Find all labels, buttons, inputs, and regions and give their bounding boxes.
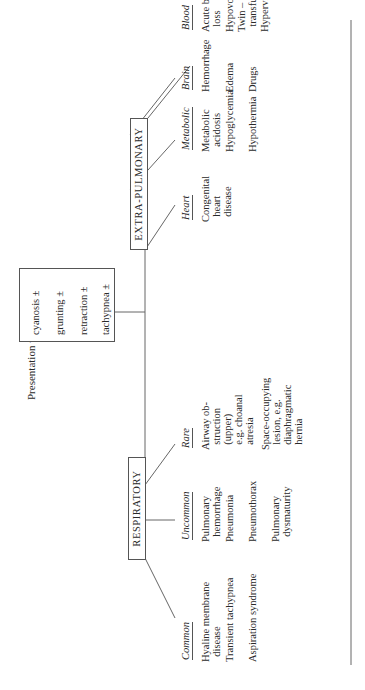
blood-item-3: Twin – Twin transfusion — [236, 0, 258, 32]
uncommon-item-2: Pneumonia — [224, 495, 235, 542]
symptom-retraction: retraction ± — [78, 286, 89, 335]
common-item-1: Hyaline membrane disease — [200, 582, 222, 662]
uncommon-item-3: Pneumothorax — [247, 481, 258, 542]
metabolic-item-2: Hypoglycemia — [224, 90, 235, 152]
connector-lines — [0, 0, 365, 690]
blood-item-1: Acute blood loss — [200, 0, 222, 32]
uncommon-item-1: Pulmonary hemorrhage — [200, 487, 222, 542]
header-heart: Heart — [180, 196, 193, 221]
header-uncommon: Uncommon — [180, 492, 193, 540]
metabolic-item-3: Hypothermia — [247, 97, 258, 152]
header-brain: Brain — [180, 66, 193, 90]
brain-item-2: Edema — [224, 63, 235, 92]
heart-item-1: Congenital heart disease — [200, 176, 233, 222]
common-item-2: Transient tachypnea — [224, 578, 235, 662]
uncommon-item-4: Pulmonary dysmaturity — [270, 487, 292, 542]
blood-item-2: Hypovolemia — [224, 0, 235, 32]
rare-item-2: Space-occupying lesion, e.g. diaphragmat… — [260, 378, 304, 450]
rare-item-1: Airway ob- struction (upper) e.g. choana… — [200, 394, 255, 450]
blood-item-4: Hyperviscosity — [259, 0, 270, 32]
extra-pulmonary-box: EXTRA-PULMONARY — [130, 118, 148, 250]
brain-item-1: Hemorrhage — [200, 40, 211, 92]
symptom-cyanosis: cyanosis ± — [30, 290, 41, 335]
symptoms-box: cyanosis ± grunting ± retraction ± tachy… — [19, 268, 115, 342]
symptom-tachypnea: tachypnea ± — [100, 284, 111, 335]
symptom-grunting: grunting ± — [54, 291, 65, 335]
respiratory-box: RESPIRATORY — [128, 457, 146, 560]
metabolic-item-1: Metabolic acidosis — [200, 109, 222, 152]
common-item-3: Aspiration syndrome — [247, 574, 258, 662]
header-rare: Rare — [180, 428, 193, 448]
header-blood: Blood — [180, 5, 193, 30]
diagram-stage: Presentation with – cyanosis ± grunting … — [0, 0, 365, 690]
brain-item-3: Drugs — [247, 66, 258, 92]
header-metabolic: Metabolic — [180, 107, 193, 150]
header-common: Common — [180, 622, 193, 660]
